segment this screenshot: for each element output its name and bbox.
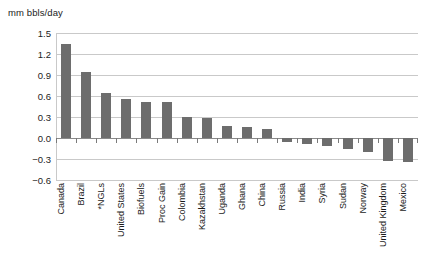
x-axis-label: China: [257, 183, 277, 207]
bar-slot: [338, 33, 358, 180]
y-axis-tick-label: 0.3: [38, 112, 51, 123]
x-axis-label: Ghana: [237, 183, 257, 210]
x-axis-label: Russia: [277, 183, 297, 211]
bar-slot: [116, 33, 136, 180]
bar: [182, 117, 192, 138]
bar: [162, 102, 172, 138]
x-axis-label: United States: [116, 183, 136, 237]
bar: [343, 138, 353, 149]
bar-slot: [217, 33, 237, 180]
x-axis-tick: [277, 138, 278, 143]
bar-slot: [297, 33, 317, 180]
x-axis-tick: [116, 138, 117, 143]
x-axis-tick: [338, 138, 339, 143]
bar: [242, 127, 252, 138]
bar-slot: [378, 33, 398, 180]
x-axis-tick: [136, 138, 137, 143]
x-axis-tick: [398, 138, 399, 143]
bar: [262, 129, 272, 138]
x-axis-tick: [217, 138, 218, 143]
bar: [81, 72, 91, 138]
x-axis-tick: [237, 138, 238, 143]
bar: [383, 138, 393, 161]
bar: [363, 138, 373, 152]
x-axis-tick: [157, 138, 158, 143]
x-axis-tick: [257, 138, 258, 143]
bar-slot: [237, 33, 257, 180]
x-axis-label: Brazil: [76, 183, 96, 206]
gridline: [56, 180, 418, 181]
y-axis-unit-label: mm bbls/day: [8, 7, 63, 18]
bar-slot: [197, 33, 217, 180]
y-axis-tick-label: 0.6: [38, 91, 51, 102]
x-axis-tick: [96, 138, 97, 143]
x-axis-tick: [378, 138, 379, 143]
bar-chart: mm bbls/day 1.51.20.90.60.30.0−0.3−0.6 C…: [0, 0, 433, 278]
bar-slot: [277, 33, 297, 180]
x-axis-label: *NGLs: [96, 183, 116, 210]
bar-slot: [96, 33, 116, 180]
x-axis-labels: CanadaBrazil*NGLsUnited StatesBiofuelsPr…: [56, 183, 418, 275]
bar-slot: [317, 33, 337, 180]
bar-slot: [177, 33, 197, 180]
plot-area: 1.51.20.90.60.30.0−0.3−0.6: [56, 33, 418, 180]
y-axis-tick-label: −0.3: [32, 154, 51, 165]
bar-slot: [56, 33, 76, 180]
y-axis-tick-label: −0.6: [32, 175, 51, 186]
x-axis-tick: [197, 138, 198, 143]
y-axis-tick-label: 0.0: [38, 133, 51, 144]
bar: [282, 138, 292, 142]
x-axis-label: Norway: [358, 183, 378, 214]
y-axis-tick-label: 1.2: [38, 49, 51, 60]
x-axis-tick: [417, 138, 418, 143]
x-axis-label: United Kingdom: [378, 183, 398, 247]
bar: [403, 138, 413, 162]
bar-slot: [257, 33, 277, 180]
bar-slot: [136, 33, 156, 180]
bar: [322, 138, 332, 146]
x-axis-label: Canada: [56, 183, 76, 215]
x-axis-label: Uganda: [217, 183, 237, 215]
bar-series: [56, 33, 418, 180]
x-axis-label: Kazakhstan: [197, 183, 217, 230]
x-axis-tick: [177, 138, 178, 143]
bar: [121, 99, 131, 138]
bar: [101, 93, 111, 139]
bar: [141, 102, 151, 138]
y-axis-tick-label: 1.5: [38, 28, 51, 39]
bar-slot: [76, 33, 96, 180]
x-axis-label: Mexico: [398, 183, 418, 212]
x-axis-label: Biofuels: [136, 183, 156, 215]
x-axis-label: Syria: [317, 183, 337, 204]
x-axis-tick: [317, 138, 318, 143]
x-axis-tick: [297, 138, 298, 143]
x-axis-label: Sudan: [338, 183, 358, 209]
x-axis-tick: [56, 138, 57, 143]
bar-slot: [358, 33, 378, 180]
x-axis-label: Colombia: [177, 183, 197, 221]
bar-slot: [398, 33, 418, 180]
bar: [61, 44, 71, 138]
bar-slot: [157, 33, 177, 180]
x-axis-label: Proc Gain: [157, 183, 177, 223]
bar: [222, 126, 232, 138]
x-axis-label: India: [297, 183, 317, 203]
x-axis-tick: [358, 138, 359, 143]
bar: [302, 138, 312, 144]
x-axis-tick: [76, 138, 77, 143]
bar: [202, 118, 212, 138]
y-axis-tick-label: 0.9: [38, 70, 51, 81]
